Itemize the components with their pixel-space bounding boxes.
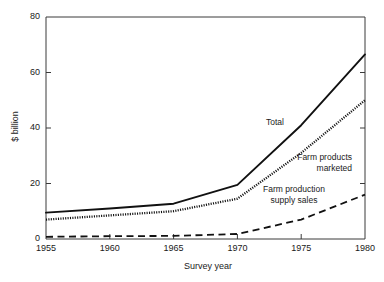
y-tick-label-60: 60 — [20, 68, 40, 77]
x-tick-label-1955: 1955 — [29, 244, 63, 253]
y-axis-ticks — [46, 73, 51, 184]
annotation-farm-products-marketed-line2: marketed — [248, 163, 352, 173]
y-tick-label-80: 80 — [20, 12, 40, 21]
y-tick-label-0: 0 — [20, 234, 40, 243]
annotation-farm-production-supply-sales-line2: supply sales — [240, 195, 348, 205]
y-tick-label-40: 40 — [20, 123, 40, 132]
annotation-farm-products-marketed-line1: Farm products — [248, 152, 352, 162]
y-axis-title: $ billion — [11, 97, 20, 157]
y-axis-ticks-right — [360, 73, 365, 184]
x-tick-label-1970: 1970 — [220, 244, 254, 253]
x-tick-label-1975: 1975 — [284, 244, 318, 253]
y-tick-label-20: 20 — [20, 179, 40, 188]
x-axis-title: Survey year — [168, 262, 248, 271]
x-tick-label-1980: 1980 — [348, 244, 382, 253]
chart-figure: 80 60 40 20 0 1955 1960 1965 1970 1975 1… — [0, 0, 384, 282]
annotation-farm-production-supply-sales-line1: Farm production — [240, 184, 348, 194]
axis-frame — [46, 17, 365, 239]
x-tick-label-1960: 1960 — [93, 244, 127, 253]
x-tick-label-1965: 1965 — [157, 244, 191, 253]
chart-plot-area — [0, 0, 384, 282]
annotation-total: Total — [266, 117, 284, 127]
